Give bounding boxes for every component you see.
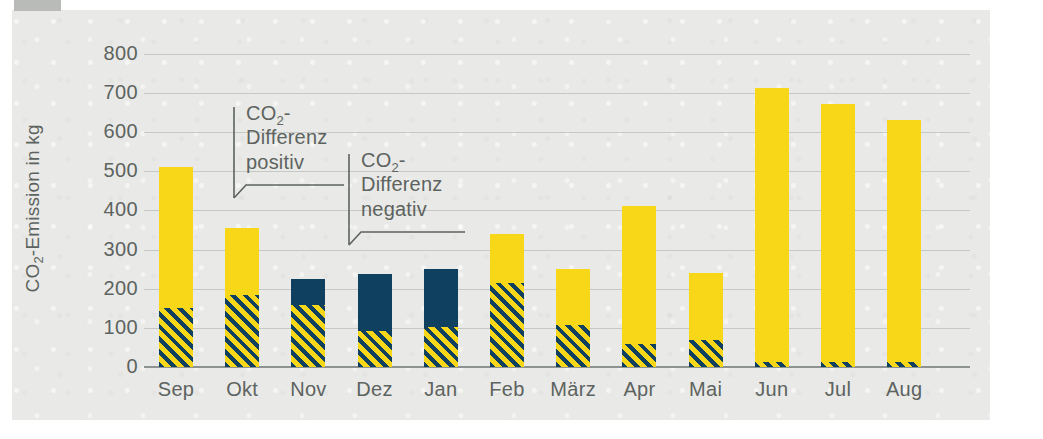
bar-segment-positiv-jun [755, 88, 789, 362]
bar-jul[interactable] [821, 104, 855, 367]
bar-jan[interactable] [424, 269, 458, 367]
bar-dez[interactable] [358, 274, 392, 367]
bar-märz[interactable] [556, 269, 590, 367]
annotation-co2-differenz-negativ: CO2- Differenz negativ [347, 152, 607, 282]
bar-aug[interactable] [887, 120, 921, 367]
annotation-negative-line1-pre: CO [361, 149, 391, 171]
co2-emission-bar-chart: CO2-Emission in kg 800700600500400300200… [0, 0, 1043, 439]
annotation-positive-line3: positiv [246, 152, 304, 174]
annotation-positive-line1-pre: CO [246, 102, 276, 124]
bar-segment-negativ-nov [291, 279, 325, 305]
bar-mai[interactable] [689, 273, 723, 367]
y-tick-label-500: 500 [74, 160, 138, 180]
y-tick-label-800: 800 [74, 43, 138, 63]
bar-segment-hatched-apr [622, 344, 656, 367]
y-axis-title: CO2-Emission in kg [22, 88, 47, 328]
bar-segment-hatched-jan [424, 327, 458, 367]
y-tick-label-200: 200 [74, 278, 138, 298]
bar-okt[interactable] [225, 228, 259, 367]
bar-segment-hatched-märz [556, 325, 590, 367]
y-tick-label-400: 400 [74, 199, 138, 219]
bar-segment-hatched-jun [755, 362, 789, 367]
bar-segment-hatched-okt [225, 295, 259, 367]
annotation-positive-line2: Differenz [246, 127, 327, 149]
annotation-negative-line1-post: - [399, 149, 406, 171]
bar-segment-hatched-sep [159, 308, 193, 367]
y-tick-label-700: 700 [74, 82, 138, 102]
annotation-negative-line3: negativ [361, 199, 427, 221]
bar-segment-hatched-mai [689, 340, 723, 367]
bar-apr[interactable] [622, 206, 656, 367]
y-axis-title-post: -Emission in kg [22, 124, 43, 256]
bar-segment-hatched-dez [358, 331, 392, 367]
bar-jun[interactable] [755, 88, 789, 367]
y-tick-label-100: 100 [74, 317, 138, 337]
y-axis-title-sub: 2 [31, 256, 46, 263]
y-tick-label-0: 0 [74, 356, 138, 376]
bar-segment-positiv-jul [821, 104, 855, 363]
bar-segment-positiv-mai [689, 273, 723, 340]
bar-segment-positiv-aug [887, 120, 921, 363]
bar-segment-positiv-sep [159, 167, 193, 308]
y-axis-title-pre: CO [22, 264, 43, 293]
gridline-700 [144, 93, 970, 94]
annotation-negative-line2: Differenz [361, 174, 442, 196]
bar-segment-positiv-okt [225, 228, 259, 295]
bar-sep[interactable] [159, 167, 193, 367]
bar-nov[interactable] [291, 279, 325, 367]
bar-segment-positiv-apr [622, 206, 656, 345]
bar-segment-hatched-aug [887, 362, 921, 367]
gridline-800 [144, 54, 970, 55]
bar-segment-hatched-nov [291, 305, 325, 367]
bar-segment-negativ-dez [358, 274, 392, 331]
annotation-negative-line1: CO2- [361, 150, 406, 175]
bar-segment-hatched-feb [490, 283, 524, 367]
annotation-positive-line1-post: - [284, 102, 291, 124]
annotation-positive-line1: CO2- [246, 103, 291, 128]
y-axis-tick-labels: 8007006005004003002001000 [58, 0, 138, 439]
y-tick-label-600: 600 [74, 121, 138, 141]
y-tick-label-300: 300 [74, 239, 138, 259]
bar-segment-hatched-jul [821, 362, 855, 367]
x-tick-label-aug: Aug [864, 378, 944, 401]
